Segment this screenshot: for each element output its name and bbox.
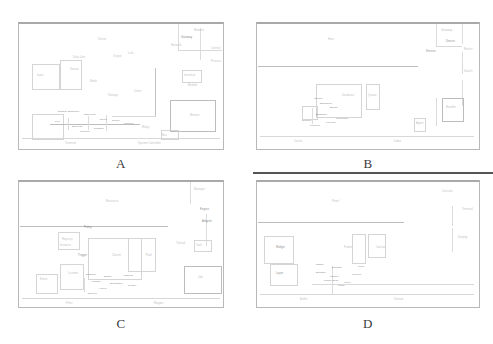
panel-a-cluster-tick-1 [68,118,69,130]
panel-b-box-centre-2 [366,84,380,110]
panel-a-label-5: Interface [184,74,195,77]
panel-d-letter: D [256,316,480,332]
panel-a-label-10: Input [37,74,44,77]
panel-b-cluster-label-4: Session [302,120,312,123]
panel-c-label-13: Event [40,278,47,281]
panel-d-box-left [264,236,294,264]
panel-a-cluster-label-6: Port [55,121,60,124]
panel-d-cluster-label-5: Clock [344,282,351,285]
panel-d-label-3: Panel [332,200,339,203]
panel-c-label-10: Task [196,244,202,247]
panel-c-cluster-label-6: Backup [88,293,97,296]
panel-a-top-shelf [178,50,222,51]
panel-a-label-17: Relay [142,126,149,129]
panel-a-label-0: Remote [194,29,204,32]
panel-a-cluster-label-4: Signal [112,120,120,123]
panel-b-label-10: Cache [294,140,302,143]
panel-b-label-2: Service [426,50,436,53]
panel-b-cluster-stem [312,108,313,124]
panel-a-label-3: Network [171,44,182,47]
panel-b-cluster-label-5: Request [310,125,320,128]
panel-c-divider-horizontal [20,226,168,227]
panel-d-box-left-2 [270,264,298,286]
panel-b-label-6: Database [342,94,354,97]
panel-b-box-right [442,98,464,122]
panel-d-cluster-label-4: Frame Sync [324,280,338,283]
panel-a-label-16: Monitor [190,114,200,117]
panel-c-cluster: Reducer Shard Replica Primary Secondary … [80,274,148,298]
panel-a-box-left [32,64,60,90]
panel-a-letter: A [18,156,224,172]
panel-b-baseline [260,136,474,137]
panel-b-divider-horizontal [258,66,418,67]
panel-d-label-2: Display [458,236,468,239]
panel-c-label-1: Engine [200,208,209,211]
panel-c-label-14: Listener [68,272,78,275]
panel-b-cluster-label-0: Worker [314,98,323,101]
panel-c-label-5: Registry [62,238,73,241]
panel-b-right-stem [436,98,437,126]
panel-a-label-8: Data Unit [73,56,85,59]
panel-d-divider-horizontal [258,222,404,223]
panel-c-cluster-label-0: Reducer [86,274,96,277]
panel-c-label-0: Manager [194,188,205,191]
panel-b-label-7: Queue [368,94,377,97]
panel-d-cluster-label-6: Timer [358,266,365,269]
panel-d-label-9: Stream [394,298,403,301]
panel-d-right-tick-2 [452,228,453,252]
panel-d-cluster: Codec Decoder Encoder Packet Frame Sync … [314,264,376,290]
panel-a-cluster-label-8: Register [80,131,90,134]
panel-a-label-9: Sensor [70,68,79,71]
four-panel-figure: Remote Gateway Server Network Control In… [0,0,493,344]
panel-d-cluster-label-7: Counter [352,274,362,277]
panel-c-label-12: Trigger [78,254,87,257]
panel-b-label-3: Router [464,48,473,51]
panel-c-label-16: Mapper [154,302,164,305]
panel-c-cluster-label-7: Trigger [128,285,137,288]
panel-b-cluster: Worker Scheduler Broker Endpoint Session… [300,98,356,130]
panel-a: Remote Gateway Server Network Control In… [18,22,224,150]
panel-c-baseline [22,298,220,299]
panel-d-label-6: Frame [344,246,352,249]
panel-b-box-bottom-right [414,118,426,132]
panel-b-label-1: Device [446,40,455,43]
panel-d: Console Terminal Display Panel Widget La… [256,180,480,308]
panel-a-right-tick [200,28,201,60]
panel-c-cluster-label-1: Shard [104,276,111,279]
panel-a-cluster-label-0: System Controller [58,111,80,114]
panel-c-label-7: Cluster [112,254,121,257]
panel-b-label-4: Switch [464,70,473,73]
panel-c-label-15: Filter [66,302,73,305]
panel-a-label-18: Bus [162,134,167,137]
panel-b-right-tick-3 [462,52,463,74]
panel-a-box-left-2 [60,60,82,90]
panel-c-label-8: Pool [146,254,152,257]
panel-c-label-6: Instance [60,244,71,247]
panel-c-label-11: Job [198,276,203,279]
panel-a-label-13: Node [90,80,97,83]
panel-b-label-0: Gateway [441,29,452,32]
panel-a-label-20: System Controller [138,142,161,145]
panel-a-divider-vertical [155,68,156,116]
panel-a-label-11: Output [113,55,122,58]
panel-d-right-tick [452,206,453,226]
panel-c-label-9: Thread [176,242,185,245]
panel-c-label-4: Policy [84,226,92,229]
panel-a-cluster-label-7: Buffer [100,119,107,122]
panel-a-label-7: Process [211,60,221,63]
panel-c-cluster-label-3: Primary [92,281,101,284]
panel-b: Gateway Device Service Router Switch Hos… [256,22,480,150]
panel-c-right-tick [190,182,191,204]
panel-b-letter: B [256,156,480,172]
panel-d-label-5: Layer [276,272,283,275]
panel-c-cluster-label-2: Replica [124,275,133,278]
panel-a-label-4: Control [211,47,220,50]
panel-b-label-5: Host [328,38,334,41]
panel-a-label-14: Storage [108,94,118,97]
panel-c-cluster-label-5: Archive [98,288,107,291]
panel-c-box-upper-left [58,232,80,250]
panel-d-cluster-label-8: Latch [338,285,345,288]
panel-b-label-11: Index [394,140,401,143]
row-separator-rule [253,172,493,174]
panel-d-cluster-label-0: Codec [316,264,324,267]
